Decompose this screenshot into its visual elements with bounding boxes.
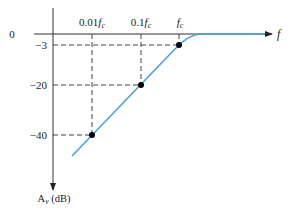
point-001fc	[89, 132, 95, 138]
y-origin-label: 0	[9, 28, 15, 40]
y-tick-label-minus40: −40	[30, 129, 48, 141]
x-tick-label-001fc: 0.01fc	[79, 16, 105, 30]
y-axis-label: Av (dB)	[38, 193, 71, 206]
point-fc	[176, 42, 182, 48]
point-01fc	[138, 82, 144, 88]
x-tick-label-fc: fc	[177, 16, 184, 30]
bode-plot-diagram: 0 −3 −20 −40 0.01fc 0.1fc fc f Av (dB)	[0, 0, 290, 214]
y-tick-label-minus20: −20	[30, 79, 48, 91]
y-tick-label-minus3: −3	[35, 39, 47, 51]
x-axis-label: f	[277, 27, 282, 41]
dashed-guides	[53, 34, 179, 135]
x-tick-label-01fc: 0.1fc	[131, 16, 152, 30]
response-curve	[72, 34, 265, 156]
